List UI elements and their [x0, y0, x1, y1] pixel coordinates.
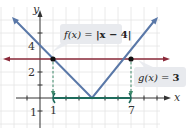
x-axis-label: x: [174, 91, 181, 104]
g-line: [3, 57, 170, 62]
svg-text:f(x) = |x − 4|: f(x) = |x − 4|: [63, 29, 131, 41]
intersection-point-right: [128, 56, 133, 61]
f-label-prefix: f(x) =: [63, 29, 96, 40]
g-line-left-arrow-icon: [3, 57, 10, 62]
svg-text:g(x) = 3: g(x) = 3: [138, 72, 180, 83]
g-label-prefix: g(x) =: [138, 72, 173, 83]
x-axis-arrow-icon: [164, 96, 171, 101]
g-label-value: 3: [173, 72, 180, 83]
absolute-value-graph: y x 4 2 1 1 7 f(x) = |x − 4|: [0, 0, 193, 131]
y-tick-label-neg1: 1: [30, 106, 37, 119]
x-tick-label-7: 7: [128, 104, 135, 117]
y-axis-label: y: [32, 3, 40, 16]
f-label-expr: |x − 4|: [96, 29, 132, 41]
g-line-right-arrow-icon: [163, 57, 170, 62]
intersection-point-left: [50, 56, 55, 61]
y-tick-label-4: 4: [28, 40, 35, 53]
g-label-callout: g(x) = 3: [134, 60, 186, 87]
x-tick-label-1: 1: [50, 104, 57, 117]
y-tick-label-2: 2: [28, 66, 35, 79]
